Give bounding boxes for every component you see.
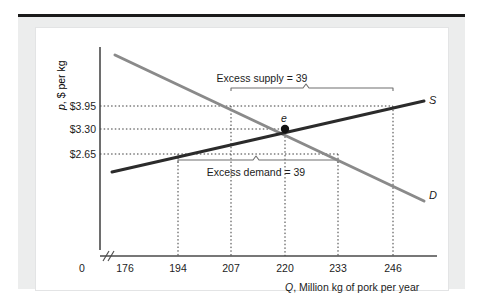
x-tick-label-194: 194 [166,262,190,274]
y-axis-title-rest: , $ per kg [55,60,67,104]
x-tick-label-0: 0 [70,262,94,274]
y-tick-label-3-95: $3.95 [56,100,96,112]
x-tick-label-176: 176 [113,262,137,274]
x-tick-label-246: 246 [381,262,405,274]
equilibrium-label: e [281,112,287,124]
excess-supply-brace [231,84,393,91]
supply-demand-chart: p, $ per kg $3.95 $3.30 $2.65 0 176 194 … [0,0,486,306]
demand-curve-label: D [429,189,437,201]
x-tick-label-220: 220 [273,262,297,274]
x-axis-title-symbol: Q [285,281,293,293]
x-tick-label-233: 233 [326,262,350,274]
excess-supply-annotation: Excess supply = 39 [217,72,308,84]
equilibrium-point [281,125,289,133]
supply-curve-label: S [429,94,436,106]
x-tick-label-207: 207 [219,262,243,274]
x-axis-title-rest: , Million kg of pork per year [293,281,419,293]
x-axis-title: Q, Million kg of pork per year [285,281,419,293]
excess-demand-annotation: Excess demand = 39 [207,166,305,178]
figure-container: p, $ per kg $3.95 $3.30 $2.65 0 176 194 … [0,0,486,306]
supply-curve [112,101,424,172]
excess-demand-brace [178,156,338,163]
y-tick-label-2-65: $2.65 [56,148,96,160]
y-tick-label-3-30: $3.30 [56,123,96,135]
